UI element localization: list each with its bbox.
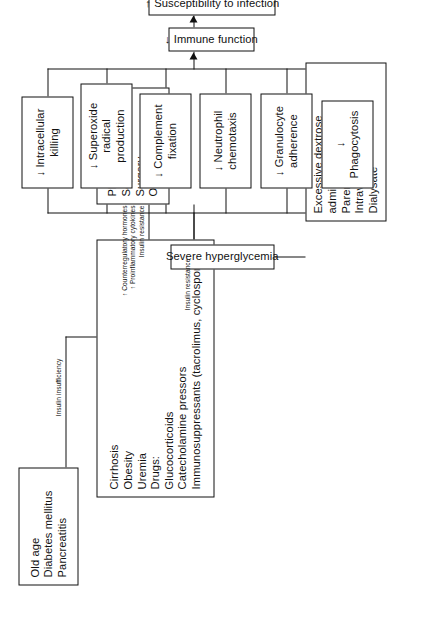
edge-label-insulin-insufficiency: Insulin insufficiency [54, 332, 62, 442]
edge-join-intracellular [47, 68, 48, 96]
edge-join-granulocyte [286, 68, 287, 93]
edge-stub-intracellular [47, 187, 48, 213]
node-decreased-superoxide-radical-production: ↓ Superoxide radical production [80, 83, 132, 188]
edge-join-neutrophil [225, 68, 226, 93]
node-insulin-resistance-causes: Cirrhosis Obesity Uremia Drugs: Glucocor… [96, 239, 214, 497]
node-increased-susceptibility-to-infection: ↑ Susceptibility to infection [148, 0, 275, 15]
node-decreased-immune-function-label: ↓ Immune function [164, 32, 257, 46]
edge-risk-to-trunk [65, 336, 66, 467]
arrowhead-into-susceptibility [189, 15, 197, 22]
node-decreased-granulocyte-adherence: ↓ Granulocyte adherence [260, 93, 312, 188]
node-decreased-immune-function: ↓ Immune function [168, 27, 254, 51]
edge-label-stress-mediators: ↑ Counterregulatory hormones ↑ Proinflam… [120, 205, 145, 327]
arrowhead-into-immune-function [189, 52, 197, 59]
node-decreased-phagocytosis: ↓ Phagocytosis [321, 100, 373, 188]
node-risk-conditions: Old age Diabetes mellitus Pancreatitis [18, 467, 78, 585]
edge-label-insulin-resistance-drugs: Insulin resistance [183, 246, 191, 322]
node-decreased-intracellular-killing: ↓ Intracellular killing [21, 96, 73, 188]
flowchart-canvas: Old age Diabetes mellitus Pancreatitis C… [0, 0, 425, 627]
node-decreased-neutrophil-chemotaxis: ↓ Neutrophil chemotaxis [199, 93, 251, 188]
edge-stub-granulocyte [286, 187, 287, 213]
edge-join-spine [47, 68, 347, 69]
node-decreased-complement-fixation: ↓ Complement fixation [139, 93, 191, 188]
edge-stub-neutrophil [225, 187, 226, 213]
edge-fanout-spine [47, 212, 347, 213]
node-increased-susceptibility-to-infection-label: ↑ Susceptibility to infection [144, 0, 278, 10]
edge-join-superoxide [106, 68, 107, 83]
